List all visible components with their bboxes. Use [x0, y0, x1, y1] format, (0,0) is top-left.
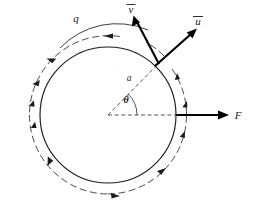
- velocity-v-shaft: [137, 22, 159, 64]
- arc-arrowhead-lower-right: [157, 168, 166, 175]
- outer-dashed-arc-right: [172, 69, 187, 115]
- label-angle-theta: θ: [123, 94, 129, 105]
- arc-arrowhead-lower-left: [48, 157, 54, 166]
- velocity-vector-v: [132, 16, 159, 65]
- radius-line-a: [108, 61, 161, 115]
- arc-arrowhead-bottom: [111, 193, 120, 198]
- force-vector-F: [176, 111, 229, 120]
- label-velocity-v-group: v: [127, 3, 136, 15]
- label-radius-a: a: [127, 73, 132, 83]
- arc-arrowhead-right-mid: [182, 101, 187, 108]
- arc-arrowhead-right-lower: [180, 131, 185, 138]
- velocity-vector-u: [155, 29, 197, 67]
- arc-arrowhead-top: [104, 33, 113, 38]
- label-charge-q: q: [73, 12, 79, 24]
- arc-arrowhead-left-upper: [33, 80, 40, 86]
- ring-force-diagram: q v u a θ F: [0, 0, 262, 219]
- force-vector-arrowhead: [218, 111, 229, 120]
- arc-arrowhead-left-mid: [29, 100, 35, 107]
- theta-angle-arc: [128, 94, 137, 115]
- arc-arrowhead-left-lower: [31, 122, 37, 128]
- arc-arrowhead-upper-left: [47, 59, 57, 64]
- label-velocity-u-group: u: [193, 15, 203, 27]
- figure-canvas: q v u a θ F: [0, 0, 262, 219]
- label-force-F: F: [234, 109, 242, 121]
- velocity-u-shaft: [155, 34, 191, 66]
